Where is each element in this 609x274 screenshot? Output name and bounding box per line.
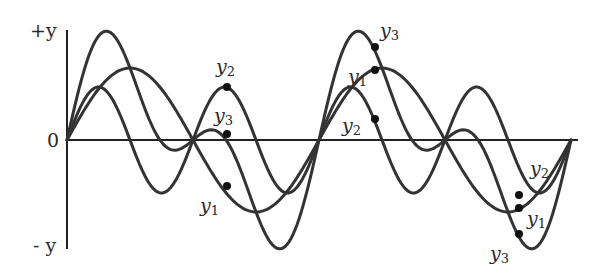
point-y3-b (371, 43, 379, 51)
label-y3-c: y3 (489, 242, 509, 266)
point-y1-c (515, 204, 523, 212)
point-y2-a (223, 83, 231, 91)
label-y2-b: y2 (341, 114, 361, 138)
label-y1-c: y1 (526, 207, 546, 231)
point-y2-b (371, 115, 379, 123)
label-y3-b: y3 (379, 19, 399, 43)
y-negative-label: - y (33, 234, 56, 256)
label-y1-a: y1 (199, 194, 219, 218)
label-y3-a: y3 (213, 104, 233, 128)
label-y2-c: y2 (529, 157, 549, 181)
label-y2-a: y2 (215, 55, 235, 79)
point-y1-b (371, 66, 379, 74)
point-y3-c (515, 230, 523, 238)
y-positive-label: +y (30, 19, 57, 41)
point-y3-a (223, 130, 231, 138)
origin-label: 0 (47, 129, 59, 151)
wave-superposition-diagram: +y 0 - y y2 y3 y1 y3 y1 y2 y2 y1 y3 (0, 0, 609, 274)
point-y1-a (223, 182, 231, 190)
label-y1-b: y1 (347, 65, 367, 89)
point-y2-c (515, 191, 523, 199)
